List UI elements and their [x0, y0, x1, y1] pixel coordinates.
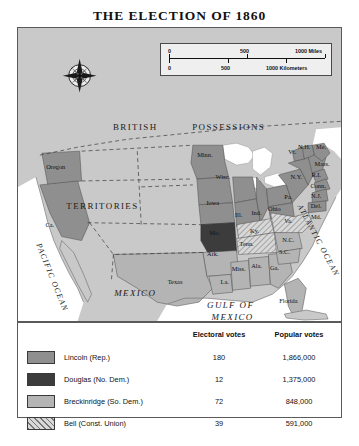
electoral-votes-value: 72	[181, 390, 257, 412]
candidate-name: Breckinridge (So. Dem.)	[64, 390, 181, 412]
state-label: Ga.	[270, 264, 279, 271]
state-label: N.J.	[311, 192, 322, 199]
table-row: Breckinridge (So. Dem.)72848,000	[18, 390, 341, 412]
state-label: Vt.	[288, 148, 296, 155]
state-label: S.C.	[279, 248, 290, 255]
state-label: Mo.	[210, 229, 221, 236]
state-label: Va.	[284, 217, 293, 224]
scale-miles-end: 1000 Miles	[295, 48, 322, 54]
region-label: MEXICO	[113, 288, 156, 298]
popular-votes-value: 1,375,000	[257, 368, 341, 390]
popular-votes-value: 848,000	[257, 390, 341, 412]
region-label: TERRITORIES	[66, 201, 138, 211]
state-label: Ky.	[250, 227, 259, 234]
popular-votes-value: 591,000	[257, 413, 341, 435]
state-label: Ind.	[251, 209, 261, 216]
swatch-breckinridge-icon	[27, 395, 55, 408]
results-table: Electoral votes Popular votes Lincoln (R…	[18, 323, 341, 435]
swatch-lincoln-icon	[27, 351, 55, 364]
state-label: La.	[221, 278, 230, 285]
candidate-name: Lincoln (Rep.)	[64, 346, 181, 368]
state-label: Ca.	[45, 221, 54, 228]
legend-table: Electoral votes Popular votes Lincoln (R…	[17, 322, 342, 418]
map-frame: BRITISHPOSSESSIONSTERRITORIESMEXICOGULF …	[17, 27, 342, 322]
header-candidate	[64, 323, 181, 346]
legend-swatch-cell	[18, 413, 64, 435]
region-label: BRITISH	[113, 122, 158, 132]
state-label: Minn.	[197, 151, 213, 158]
page-title: THE ELECTION OF 1860	[0, 8, 359, 24]
electoral-votes-value: 180	[181, 346, 257, 368]
state-label: N.Y.	[291, 173, 303, 180]
header-electoral-votes: Electoral votes	[181, 323, 257, 346]
election-map-page: THE ELECTION OF 1860	[0, 0, 359, 446]
state-label: Oregon	[46, 163, 66, 170]
popular-votes-value: 1,866,000	[257, 346, 341, 368]
state-label: Md.	[311, 213, 322, 220]
state-label: N.H.	[298, 143, 311, 150]
region-label: POSSESSIONS	[192, 122, 265, 132]
scale-km-end: 1000 Kilometers	[266, 65, 307, 71]
state-label: Ohio	[268, 205, 281, 212]
scale-km-zero: 0	[168, 65, 171, 71]
swatch-douglas-icon	[27, 373, 55, 386]
candidate-name: Bell (Const. Union)	[64, 413, 181, 435]
scale-km-mid: 500	[221, 65, 230, 71]
legend-swatch-cell	[18, 390, 64, 412]
scale-miles-mid: 500	[240, 48, 249, 54]
legend-swatch-cell	[18, 368, 64, 390]
table-body: Lincoln (Rep.)1801,866,000Douglas (No. D…	[18, 346, 341, 435]
header-swatch	[18, 323, 64, 346]
header-popular-votes: Popular votes	[257, 323, 341, 346]
scale-bar: 0 500 1000 Miles 0 500 1000 Kilometers	[160, 43, 332, 76]
table-row: Lincoln (Rep.)1801,866,000	[18, 346, 341, 368]
state-label: Del.	[311, 202, 322, 209]
state-label: Wisc.	[216, 173, 231, 180]
state-label: Florida	[279, 297, 298, 304]
state-label: Miss.	[232, 265, 246, 272]
state-label: Me.	[316, 143, 326, 150]
table-row: Bell (Const. Union)39591,000	[18, 413, 341, 435]
table-row: Douglas (No. Dem.)121,375,000	[18, 368, 341, 390]
state-label: R.I.	[311, 171, 321, 178]
state-label: Mass.	[315, 160, 330, 167]
table-header-row: Electoral votes Popular votes	[18, 323, 341, 346]
state-label: Ala.	[251, 262, 262, 269]
legend-swatch-cell	[18, 346, 64, 368]
state-label: Tenn.	[239, 240, 254, 247]
state-label: Pa.	[284, 193, 292, 200]
region-label: MEXICO	[211, 312, 254, 321]
region-label: GULF OF	[207, 300, 254, 310]
state-label: Conn.	[310, 182, 326, 189]
scale-miles-zero: 0	[168, 48, 171, 54]
state-label: Ill.	[235, 211, 243, 218]
state-label: Ark.	[207, 250, 219, 257]
state-label: N.C.	[282, 236, 294, 243]
state-label: Texas	[168, 278, 183, 285]
swatch-bell-icon	[27, 417, 55, 430]
state-label: Iowa	[206, 199, 219, 206]
electoral-votes-value: 12	[181, 368, 257, 390]
candidate-name: Douglas (No. Dem.)	[64, 368, 181, 390]
electoral-votes-value: 39	[181, 413, 257, 435]
